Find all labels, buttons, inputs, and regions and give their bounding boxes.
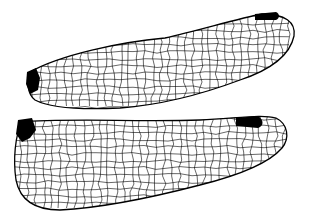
forewing [23,9,299,110]
hindwing-longitudinal-vein [12,111,288,114]
dragonfly-wings-illustration [0,0,310,222]
hindwing-cross-vein [10,112,13,208]
forewing-longitudinal-vein [25,9,289,12]
hindwing-cross-vein [291,112,294,208]
forewing-pterostigma [255,12,279,20]
forewing-cross-vein [295,10,299,106]
forewing-cross-vein [23,10,27,106]
forewing-outline [28,14,294,109]
hindwing [10,111,294,212]
